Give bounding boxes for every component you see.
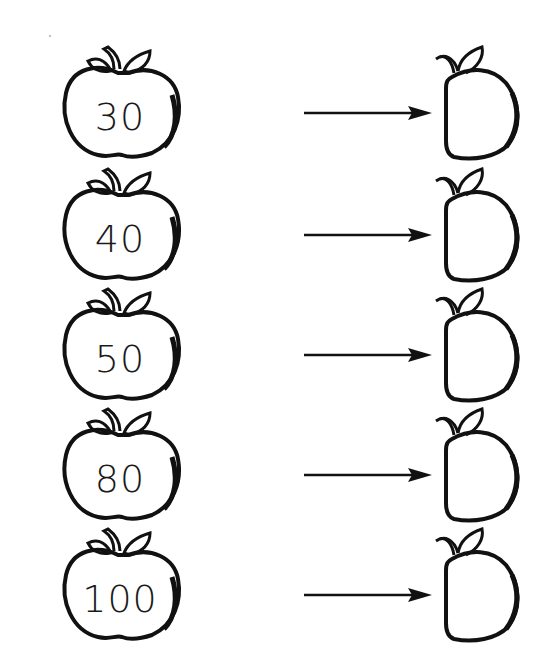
apple-outline-icon: 40: [58, 167, 188, 285]
half-apple-outline-icon[interactable]: [430, 287, 530, 405]
half-apple-outline-icon[interactable]: [430, 167, 530, 285]
apple-number: 30: [58, 95, 182, 139]
arrow-right-icon: [304, 587, 432, 601]
arrow-right-icon: [304, 347, 432, 361]
apple-outline-icon: 80: [58, 407, 188, 525]
arrow-right-icon: [304, 105, 432, 119]
apple-number: 40: [58, 217, 182, 261]
speck: [49, 35, 51, 37]
apple-number: 50: [58, 337, 182, 381]
matching-row-2: 40: [0, 167, 548, 287]
half-apple-outline-icon[interactable]: [430, 45, 530, 163]
half-apple-outline-icon[interactable]: [430, 407, 530, 525]
matching-row-5: 100: [0, 527, 548, 647]
apple-outline-icon: 50: [58, 287, 188, 405]
matching-row-1: 30: [0, 45, 548, 165]
apple-outline-icon: 30: [58, 45, 188, 163]
matching-row-4: 80: [0, 407, 548, 527]
arrow-right-icon: [304, 227, 432, 241]
arrow-right-icon: [304, 467, 432, 481]
apple-number: 100: [58, 577, 182, 621]
matching-row-3: 50: [0, 287, 548, 407]
apple-number: 80: [58, 457, 182, 501]
apple-outline-icon: 100: [58, 527, 188, 645]
half-apple-outline-icon[interactable]: [430, 527, 530, 645]
